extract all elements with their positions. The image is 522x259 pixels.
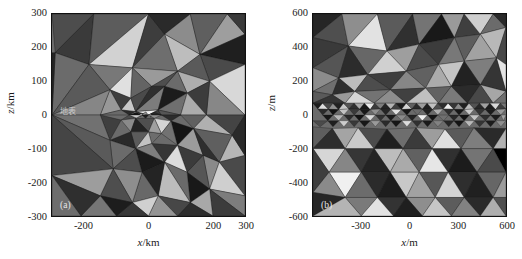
panel-b-xlabel-unit: /m xyxy=(406,236,418,248)
panel-a-xtick-3: 300 xyxy=(238,221,254,232)
panel-b-label: (b) xyxy=(321,200,332,210)
panel-a-ytick-6: -300 xyxy=(28,212,47,223)
panel-b-ytick-4: -200 xyxy=(289,144,308,155)
panel-b-ytick-1: 400 xyxy=(292,42,308,53)
panel-a-mesh xyxy=(52,14,245,216)
panel-a-ytick-3: 0 xyxy=(42,110,47,121)
panel-b-plot-area: (b) xyxy=(312,13,507,217)
panel-a: z/km 300 200 100 0 -100 -200 -300 xyxy=(0,0,261,259)
panel-b-mesh xyxy=(313,14,506,216)
panel-a-xtick-1: 0 xyxy=(146,221,151,232)
panel-b-ytick-column: 600 400 200 0 -200 -400 -600 xyxy=(261,13,308,217)
figure-container: z/km 300 200 100 0 -100 -200 -300 xyxy=(0,0,522,259)
panel-a-xlabel: x/km xyxy=(51,236,246,248)
panel-b: z/m 600 400 200 0 -200 -400 -600 xyxy=(261,0,522,259)
panel-b-xlabel: x/m xyxy=(312,236,507,248)
panel-a-ytick-0: 300 xyxy=(31,8,47,19)
panel-a-ytick-5: -200 xyxy=(28,178,47,189)
panel-a-ytick-column: 300 200 100 0 -100 -200 -300 xyxy=(0,13,47,217)
panel-b-ytick-0: 600 xyxy=(292,8,308,19)
panel-b-xtick-row: -300 0 300 600 xyxy=(312,221,507,235)
panel-a-ytick-4: -100 xyxy=(28,144,47,155)
panel-a-plot-area: 地表 (a) xyxy=(51,13,246,217)
panel-b-ytick-5: -400 xyxy=(289,178,308,189)
panel-a-ytick-2: 100 xyxy=(31,76,47,87)
panel-b-xtick-3: 600 xyxy=(499,221,515,232)
panel-b-ytick-2: 200 xyxy=(292,76,308,87)
panel-b-xtick-2: 300 xyxy=(450,221,466,232)
panel-a-ytick-1: 200 xyxy=(31,42,47,53)
panel-a-label: (a) xyxy=(60,200,71,210)
panel-a-xtick-2: 200 xyxy=(206,221,222,232)
panel-a-xtick-0: -200 xyxy=(74,221,93,232)
panel-b-xtick-1: 0 xyxy=(407,221,412,232)
panel-a-xlabel-unit: /km xyxy=(142,236,159,248)
panel-b-ytick-3: 0 xyxy=(303,110,308,121)
panel-b-xtick-0: -300 xyxy=(351,221,370,232)
panel-a-surface-annotation: 地表 xyxy=(60,105,76,116)
panel-b-ytick-6: -600 xyxy=(289,212,308,223)
panel-a-xtick-row: -200 0 200 300 xyxy=(51,221,246,235)
